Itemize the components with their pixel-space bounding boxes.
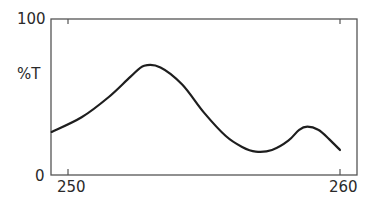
plot-area <box>0 0 375 201</box>
plot-frame <box>51 19 357 175</box>
x-tick-label-260: 260 <box>329 180 358 195</box>
y-axis-title: %T <box>17 67 40 82</box>
transmittance-curve <box>52 65 340 152</box>
y-tick-label-100: 100 <box>17 12 46 27</box>
x-tick-label-250: 250 <box>57 180 86 195</box>
y-tick-label-0: 0 <box>35 169 45 184</box>
